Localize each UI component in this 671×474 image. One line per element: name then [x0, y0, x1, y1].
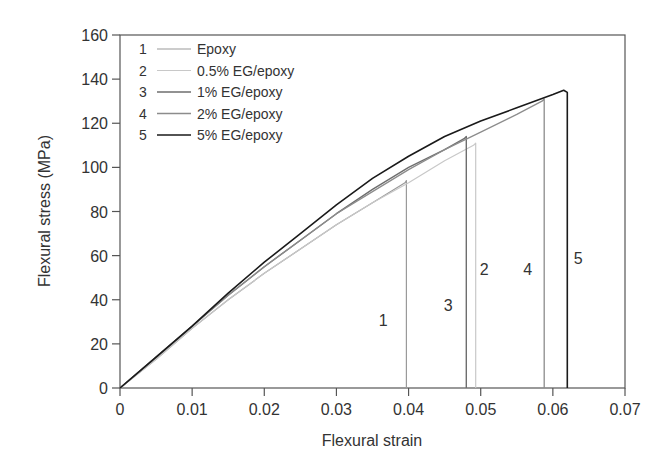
x-tick-label: 0.05	[465, 401, 496, 418]
y-tick-label: 100	[81, 159, 108, 176]
legend-number: 4	[139, 106, 147, 122]
flexural-stress-strain-chart: 00.010.020.030.040.050.060.0702040608010…	[0, 0, 671, 474]
y-tick-label: 60	[90, 248, 108, 265]
legend-label: 0.5% EG/epoxy	[197, 63, 294, 79]
curve-label-2: 2	[480, 261, 489, 278]
x-tick-label: 0.06	[537, 401, 568, 418]
y-tick-label: 0	[99, 380, 108, 397]
legend-item-5: 55% EG/epoxy	[139, 127, 283, 143]
x-tick-label: 0.01	[177, 401, 208, 418]
legend-label: 1% EG/epoxy	[197, 84, 283, 100]
curve-annotations: 13245	[379, 250, 583, 329]
legend-label: 2% EG/epoxy	[197, 106, 283, 122]
legend-label: 5% EG/epoxy	[197, 127, 283, 143]
x-tick-label: 0.04	[393, 401, 424, 418]
curve-1	[120, 181, 406, 388]
legend-number: 1	[139, 41, 147, 57]
curve-label-4: 4	[523, 261, 532, 278]
legend-item-2: 20.5% EG/epoxy	[139, 63, 294, 79]
curve-label-5: 5	[574, 250, 583, 267]
y-tick-label: 20	[90, 336, 108, 353]
legend-item-3: 31% EG/epoxy	[139, 84, 283, 100]
curve-4	[120, 99, 544, 388]
legend: 1Epoxy20.5% EG/epoxy31% EG/epoxy42% EG/e…	[139, 41, 294, 143]
x-tick-label: 0.02	[249, 401, 280, 418]
legend-number: 3	[139, 84, 147, 100]
curve-label-1: 1	[379, 312, 388, 329]
y-tick-label: 160	[81, 27, 108, 44]
curve-label-3: 3	[444, 297, 453, 314]
axes: 00.010.020.030.040.050.060.0702040608010…	[81, 27, 640, 418]
x-axis-title: Flexural strain	[322, 432, 422, 449]
y-tick-label: 140	[81, 71, 108, 88]
x-tick-label: 0.07	[609, 401, 640, 418]
legend-number: 2	[139, 63, 147, 79]
curve-2	[120, 143, 476, 388]
y-axis-title: Flexural stress (MPa)	[36, 135, 53, 287]
legend-label: Epoxy	[197, 41, 236, 57]
legend-number: 5	[139, 127, 147, 143]
y-tick-label: 40	[90, 292, 108, 309]
legend-item-4: 42% EG/epoxy	[139, 106, 283, 122]
y-tick-label: 120	[81, 115, 108, 132]
x-tick-label: 0.03	[321, 401, 352, 418]
x-tick-label: 0	[116, 401, 125, 418]
legend-item-1: 1Epoxy	[139, 41, 236, 57]
plot-frame	[120, 35, 625, 388]
curve-3	[120, 137, 466, 389]
y-tick-label: 80	[90, 204, 108, 221]
